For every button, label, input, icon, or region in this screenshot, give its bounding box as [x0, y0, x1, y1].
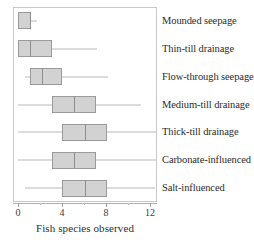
category-label: Carbonate-influenced: [162, 154, 251, 166]
x-tick-label: 4: [52, 207, 72, 219]
box-rect: [18, 40, 52, 57]
category-label: Salt-influenced: [162, 182, 225, 194]
x-tick-minor: [128, 203, 129, 205]
x-axis-line: [13, 203, 157, 204]
x-tick-label: 0: [8, 207, 28, 219]
category-label: Medium-till drainage: [162, 99, 250, 111]
boxplot-figure: 04812 Fish species observed Mounded seep…: [0, 0, 254, 243]
median-line: [74, 152, 75, 169]
x-tick-label: 12: [140, 207, 160, 219]
median-line: [85, 124, 86, 141]
category-label: Thin-till drainage: [162, 43, 234, 55]
median-line: [42, 68, 43, 85]
median-line: [74, 96, 75, 113]
category-label: Thick-till drainage: [162, 126, 239, 138]
category-label-list: Mounded seepageThin-till drainageFlow-th…: [162, 7, 254, 202]
category-label: Mounded seepage: [162, 15, 237, 27]
box-rect: [30, 68, 62, 85]
x-tick-label: 8: [96, 207, 116, 219]
x-tick-minor: [40, 203, 41, 205]
x-tick-minor: [84, 203, 85, 205]
median-line: [30, 40, 31, 57]
category-label: Flow-through seepage: [162, 71, 254, 83]
median-line: [85, 180, 86, 197]
x-axis-title: Fish species observed: [13, 222, 157, 234]
median-line: [30, 12, 31, 29]
